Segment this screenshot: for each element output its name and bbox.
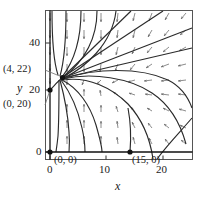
label-point-0-0: (0, 0) (54, 155, 77, 166)
label-point-15-0: (15, 0) (132, 155, 160, 166)
label-point-4-22: (4, 22) (3, 64, 31, 75)
point-0-20 (47, 87, 52, 92)
y-tick-label-20: 20 (29, 84, 40, 95)
point-0-0 (47, 149, 52, 154)
y-tick-label-0: 0 (36, 146, 42, 157)
plot-frame (46, 11, 193, 160)
x-axis-label: x (115, 180, 120, 192)
label-point-0-20: (0, 20) (3, 99, 31, 110)
x-tick-label-20: 20 (156, 164, 167, 175)
x-tick-label-0: 0 (47, 164, 53, 175)
x-tick-label-10: 10 (99, 164, 110, 175)
point-4-22 (60, 75, 65, 80)
phase-plane-figure: 40 20 0 0 10 20 x y (4, 22) (0, 20) (0, … (0, 0, 206, 199)
y-axis-label: y (17, 82, 22, 94)
y-tick-label-40: 40 (29, 37, 40, 48)
